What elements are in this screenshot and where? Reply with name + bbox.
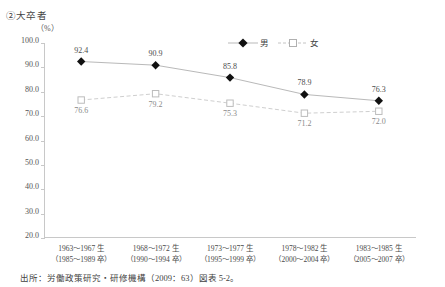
value-label: 72.0 <box>372 118 386 126</box>
value-label: 79.2 <box>149 101 163 109</box>
y-axis-tick-mark <box>41 92 45 93</box>
y-axis-tick-label: 90.0 <box>25 61 39 69</box>
y-axis-tick-label: 50.0 <box>25 159 39 167</box>
y-axis-tick-label: 20.0 <box>25 232 39 240</box>
x-axis-category-label: 1968～1972 生（1990～1994 卒） <box>126 243 186 265</box>
value-label: 71.2 <box>297 120 311 128</box>
x-axis-category-label: 1963～1967 生（1985～1989 卒） <box>51 243 111 265</box>
x-axis-label-graduation-years: （1985～1989 卒） <box>51 254 111 265</box>
plot-area: 100.090.080.070.060.050.040.030.020.0 <box>44 43 416 238</box>
y-axis-tick-mark <box>41 189 45 190</box>
y-axis-tick-label: 100.0 <box>21 37 39 45</box>
y-axis-tick-mark <box>41 67 45 68</box>
y-axis-tick-mark <box>41 141 45 142</box>
value-label: 78.9 <box>297 79 311 87</box>
y-axis-tick-mark <box>41 214 45 215</box>
y-axis-tick-mark <box>41 43 45 44</box>
x-axis-label-graduation-years: （1995～1999 卒） <box>200 254 260 265</box>
x-axis-category-label: 1983～1985 生（2005～2007 卒） <box>349 243 409 265</box>
value-label: 90.9 <box>149 50 163 58</box>
source-note: 出所：労働政策研究・研修機構（2009：63）図表 5‐2。 <box>20 271 239 283</box>
x-axis-label-birth-years: 1968～1972 生 <box>133 244 179 253</box>
y-axis-tick-label: 30.0 <box>25 208 39 216</box>
y-axis-tick-label: 80.0 <box>25 86 39 94</box>
value-label: 75.3 <box>223 110 237 118</box>
x-axis-label-graduation-years: （2005～2007 卒） <box>349 254 409 265</box>
x-axis-label-birth-years: 1983～1985 生 <box>356 244 402 253</box>
x-axis-category-label: 1978～1982 生（2000～2004 卒） <box>274 243 334 265</box>
x-axis-label-birth-years: 1963～1967 生 <box>58 244 104 253</box>
y-axis-tick-mark <box>41 116 45 117</box>
x-axis-category-label: 1973～1977 生（1995～1999 卒） <box>200 243 260 265</box>
x-axis-label-graduation-years: （1990～1994 卒） <box>126 254 186 265</box>
value-label: 76.6 <box>74 107 88 115</box>
chart-title: ②大卒者 <box>6 8 47 22</box>
value-label: 76.3 <box>372 86 386 94</box>
x-axis-label-birth-years: 1978～1982 生 <box>281 244 327 253</box>
value-label: 85.8 <box>223 63 237 71</box>
value-label: 92.4 <box>74 47 88 55</box>
x-axis-label-graduation-years: （2000～2004 卒） <box>274 254 334 265</box>
y-axis-tick-mark <box>41 238 45 239</box>
y-axis-tick-mark <box>41 165 45 166</box>
chart-container: ②大卒者 （%） 男 女 100.090.080.070.060.050.040… <box>0 0 445 287</box>
y-axis-tick-label: 40.0 <box>25 183 39 191</box>
x-axis-label-birth-years: 1973～1977 生 <box>207 244 253 253</box>
y-axis-tick-label: 60.0 <box>25 135 39 143</box>
y-axis-tick-label: 70.0 <box>25 110 39 118</box>
y-axis-unit-label: （%） <box>36 22 59 33</box>
